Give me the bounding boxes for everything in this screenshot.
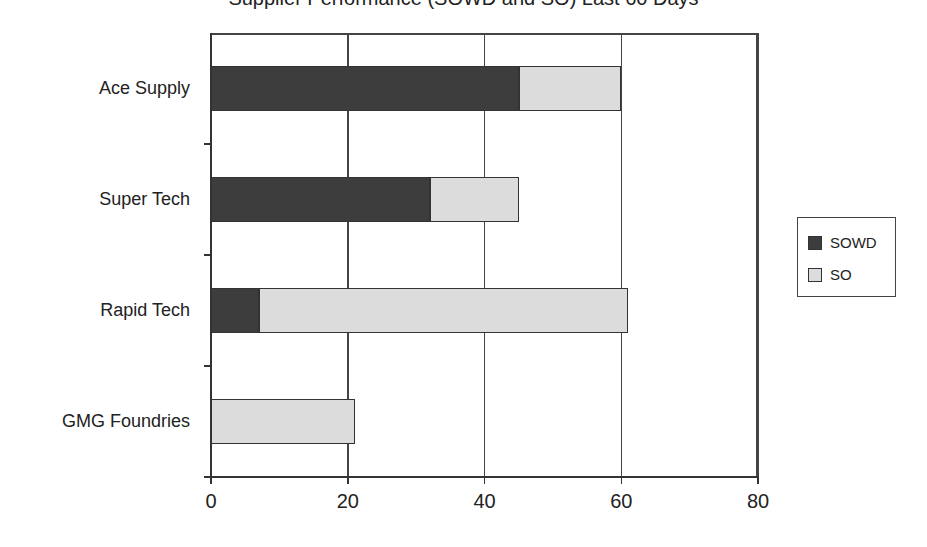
x-tick xyxy=(757,476,759,484)
legend-swatch-sowd xyxy=(808,236,822,250)
y-tick xyxy=(204,143,211,145)
bar-segment-sowd xyxy=(211,288,259,333)
x-tick-label: 80 xyxy=(728,490,788,513)
x-tick-label: 0 xyxy=(181,490,241,513)
bar-segment-sowd xyxy=(211,177,430,222)
y-tick xyxy=(204,476,211,478)
category-label: Rapid Tech xyxy=(100,300,190,321)
bar-segment-so xyxy=(259,288,628,333)
x-axis xyxy=(204,476,759,478)
x-tick xyxy=(621,476,623,484)
x-tick-label: 60 xyxy=(591,490,651,513)
legend-swatch-so xyxy=(808,268,822,282)
y-tick xyxy=(204,254,211,256)
bar-segment-sowd xyxy=(211,66,519,111)
legend-label-so: SO xyxy=(830,266,852,283)
chart-title: Supplier Performance (SOWD and SO) Last … xyxy=(0,0,927,10)
bar-segment-so xyxy=(430,177,519,222)
category-label: Ace Supply xyxy=(99,78,190,99)
x-tick-label: 40 xyxy=(455,490,515,513)
bar-segment-so xyxy=(519,66,622,111)
x-tick xyxy=(484,476,486,484)
x-tick-label: 20 xyxy=(318,490,378,513)
y-tick xyxy=(204,365,211,367)
legend-item-so: SO xyxy=(808,266,852,283)
category-label: Super Tech xyxy=(99,189,190,210)
legend-item-sowd: SOWD xyxy=(808,234,877,251)
category-label: GMG Foundries xyxy=(62,411,190,432)
gridline xyxy=(757,33,759,477)
x-tick xyxy=(347,476,349,484)
legend-label-sowd: SOWD xyxy=(830,234,877,251)
legend: SOWD SO xyxy=(797,217,896,297)
stacked-bar-chart: Supplier Performance (SOWD and SO) Last … xyxy=(0,0,927,547)
bar-segment-so xyxy=(211,399,355,444)
